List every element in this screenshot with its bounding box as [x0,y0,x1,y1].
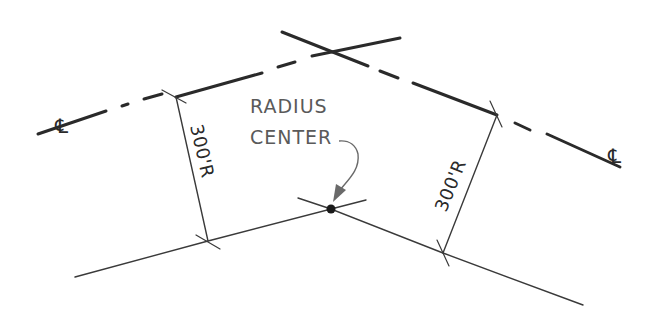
centerline-symbol-left: ℄ [54,114,68,138]
radius-center-label-line2: CENTER [250,126,332,148]
radius-center-label-line1: RADIUS [250,95,328,117]
curve-diagram: ℄ ℄ 300'R 300'R RADIUS CENTER [0,0,660,321]
arrowhead-icon [333,184,346,202]
right-tangent-centerline [282,32,620,167]
left-radius-label: 300'R [186,122,219,180]
right-radius-label: 300'R [430,156,470,214]
leader-arrow [333,141,358,202]
radius-center-point [327,205,336,214]
left-tangent-centerline [38,38,400,134]
offset-line [75,198,583,305]
centerline-symbol-right: ℄ [607,144,621,168]
